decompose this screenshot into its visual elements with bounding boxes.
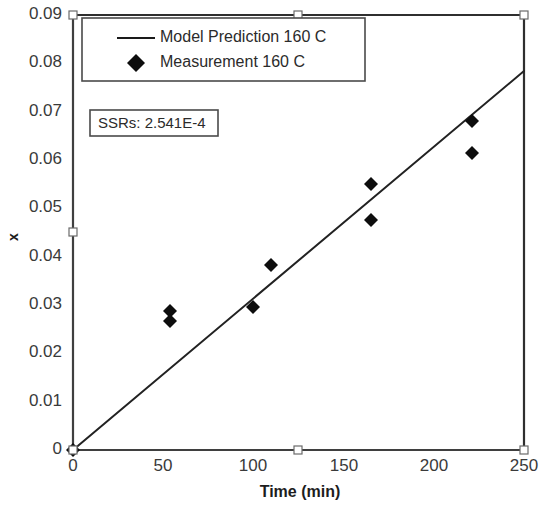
chart-legend[interactable]: Model Prediction 160 C Measurement 160 C <box>82 18 365 81</box>
x-axis-title: Time (min) <box>260 483 341 500</box>
y-tick-label: 0.04 <box>29 246 62 265</box>
scatter-chart: 0.09 0.08 0.07 0.06 0.05 0.04 0.03 0.02 … <box>0 0 560 514</box>
x-tick-label: 50 <box>154 456 173 475</box>
y-tick-label: 0.09 <box>29 4 62 23</box>
x-tick-label: 250 <box>510 456 538 475</box>
y-axis-tick-labels: 0.09 0.08 0.07 0.06 0.05 0.04 0.03 0.02 … <box>29 4 62 458</box>
legend-label-measurement: Measurement 160 C <box>160 53 305 70</box>
handle-top-left[interactable] <box>69 11 77 19</box>
legend-label-model-prediction: Model Prediction 160 C <box>160 28 326 45</box>
ssrs-label: SSRs: 2.541E-4 <box>98 114 206 131</box>
y-tick-label: 0.08 <box>29 52 62 71</box>
y-tick-label: 0.07 <box>29 101 62 120</box>
handle-bottom-left[interactable] <box>69 446 77 454</box>
y-tick-label: 0.01 <box>29 391 62 410</box>
x-tick-label: 100 <box>239 456 267 475</box>
handle-mid-left[interactable] <box>69 228 77 236</box>
y-tick-label: 0.06 <box>29 149 62 168</box>
x-tick-label: 150 <box>330 456 358 475</box>
chart-container: 0.09 0.08 0.07 0.06 0.05 0.04 0.03 0.02 … <box>0 0 560 514</box>
y-tick-label: 0.05 <box>29 197 62 216</box>
ssrs-annotation[interactable]: SSRs: 2.541E-4 <box>90 110 218 136</box>
x-axis-tick-labels: 0 50 100 150 200 250 <box>68 456 538 475</box>
y-tick-label: 0.02 <box>29 342 62 361</box>
handle-bottom-right[interactable] <box>520 446 528 454</box>
handle-top-right[interactable] <box>520 11 528 19</box>
x-tick-label: 0 <box>68 456 77 475</box>
handle-bottom-center[interactable] <box>294 446 302 454</box>
y-tick-label: 0.03 <box>29 294 62 313</box>
y-axis-title: x <box>5 233 21 241</box>
x-tick-label: 200 <box>420 456 448 475</box>
y-tick-label: 0 <box>53 439 62 458</box>
